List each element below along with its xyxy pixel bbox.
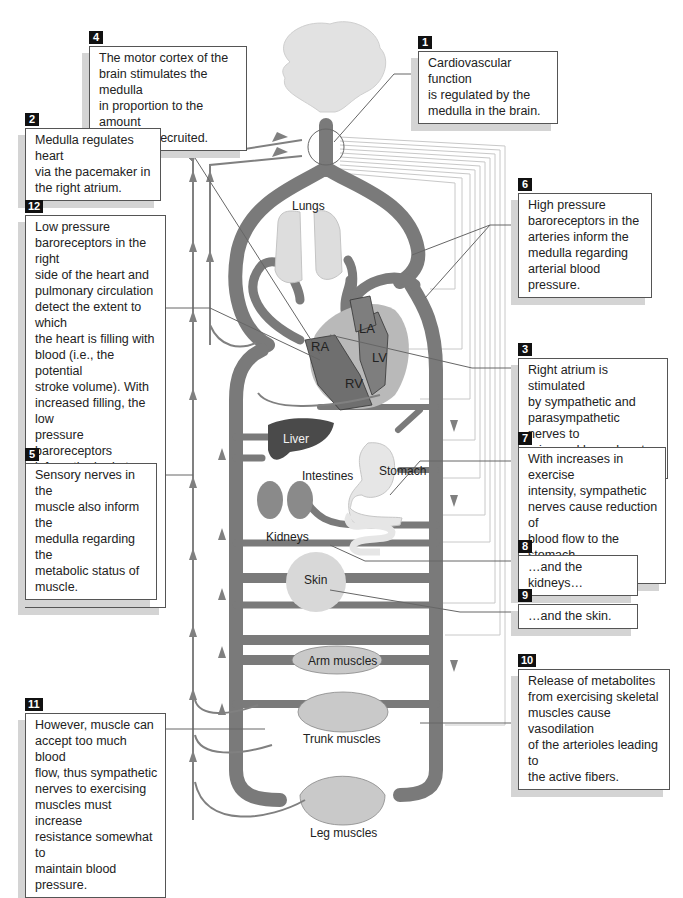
callout-number: 12	[25, 200, 43, 213]
label-arm-muscles: Arm muscles	[308, 654, 377, 668]
label-liver: Liver	[283, 432, 309, 446]
brain	[283, 22, 386, 112]
label-leg-muscles: Leg muscles	[310, 826, 377, 840]
label-left-atrium: LA	[359, 321, 375, 336]
callout-number: 1	[418, 36, 432, 49]
callout-number: 10	[518, 654, 536, 667]
label-trunk-muscles: Trunk muscles	[303, 732, 381, 746]
callout-number: 9	[518, 589, 532, 602]
label-skin: Skin	[304, 573, 327, 587]
callout-number: 5	[25, 448, 39, 461]
callout-text: Medulla regulates heartvia the pacemaker…	[25, 128, 161, 201]
stomach	[349, 443, 402, 527]
label-left-ventricle: LV	[372, 350, 387, 365]
lungs	[275, 211, 342, 283]
label-kidneys: Kidneys	[266, 530, 309, 544]
callout-number: 2	[25, 113, 39, 126]
callout-number: 3	[518, 343, 532, 356]
label-lungs: Lungs	[292, 199, 325, 213]
callout-number: 7	[518, 432, 532, 445]
callout-number: 11	[25, 698, 43, 711]
callout-text: …and the kidneys…	[518, 555, 638, 596]
callout-text: High pressurebaroreceptors in thearterie…	[518, 193, 652, 298]
label-intestines: Intestines	[302, 469, 353, 483]
callout-text: Sensory nerves in themuscle also inform …	[25, 463, 157, 600]
callout-number: 6	[518, 178, 532, 191]
callout-text: Cardiovascular functionis regulated by t…	[418, 51, 558, 124]
callout-number: 8	[518, 540, 532, 553]
label-right-atrium: RA	[311, 339, 329, 354]
callout-text: However, muscle canaccept too much blood…	[25, 713, 166, 898]
callout-number: 4	[89, 31, 103, 44]
label-right-ventricle: RV	[345, 376, 363, 391]
callout-text: Release of metabolitesfrom exercising sk…	[518, 669, 670, 790]
callout-text: …and the skin.	[518, 604, 638, 629]
label-stomach: Stomach	[379, 464, 426, 478]
kidneys	[257, 481, 313, 519]
